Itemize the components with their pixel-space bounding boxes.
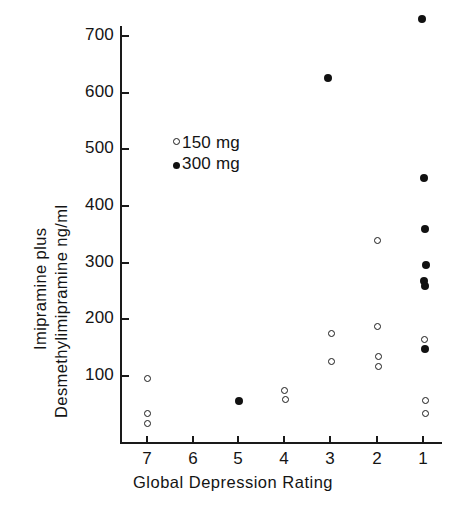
x-tick-label: 6 [180,449,206,469]
data-point-150mg [375,363,382,370]
y-tick-mark [122,35,129,37]
legend-item-label: 150 mg [182,133,240,153]
x-tick-mark [283,436,285,443]
y-axis-line [120,26,122,444]
filled-circle-icon [173,162,180,169]
x-tick-mark [422,436,424,443]
data-point-300mg [235,397,243,405]
y-tick-label: 600 [58,82,114,102]
open-circle-icon [173,138,180,145]
data-point-150mg [422,410,429,417]
y-tick-mark [122,148,129,150]
data-point-150mg [374,323,381,330]
x-tick-label: 7 [134,449,160,469]
x-tick-mark [237,436,239,443]
data-point-150mg [144,420,151,427]
data-point-300mg [422,261,430,269]
data-point-300mg [324,74,332,82]
y-axis-title-line-1: Imipramine plus [31,228,50,350]
x-tick-label: 3 [317,449,343,469]
legend-item-label: 300 mg [182,154,240,174]
y-tick-label: 200 [58,308,114,328]
data-point-300mg [420,174,428,182]
data-point-300mg [421,345,429,353]
scatter-plot-figure: Imipramine plus Desmethylimipramine ng/m… [0,0,466,511]
data-point-150mg [144,375,151,382]
data-point-150mg [281,387,288,394]
x-tick-mark [329,436,331,443]
x-tick-mark [146,436,148,443]
y-tick-mark [122,318,129,320]
data-point-300mg [421,282,429,290]
data-point-150mg [328,330,335,337]
data-point-150mg [421,336,428,343]
data-point-150mg [328,358,335,365]
data-point-150mg [374,237,381,244]
y-tick-mark [122,262,129,264]
x-tick-label: 1 [410,449,436,469]
x-axis-title: Global Depression Rating [0,473,466,492]
y-tick-mark [122,375,129,377]
y-tick-label: 100 [58,365,114,385]
y-tick-mark [122,205,129,207]
data-point-300mg [421,225,429,233]
data-point-150mg [144,410,151,417]
data-point-300mg [418,15,426,23]
x-tick-mark [192,436,194,443]
x-tick-label: 4 [271,449,297,469]
y-axis-title: Imipramine plus Desmethylimipramine ng/m… [0,0,62,450]
x-tick-label: 2 [364,449,390,469]
y-tick-label: 300 [58,252,114,272]
data-point-150mg [375,353,382,360]
y-tick-mark [122,92,129,94]
x-axis-line [120,442,442,444]
x-tick-label: 5 [225,449,251,469]
x-tick-mark [376,436,378,443]
y-tick-label: 400 [58,195,114,215]
data-point-150mg [282,396,289,403]
y-tick-label: 700 [58,25,114,45]
data-point-150mg [422,397,429,404]
y-tick-label: 500 [58,138,114,158]
